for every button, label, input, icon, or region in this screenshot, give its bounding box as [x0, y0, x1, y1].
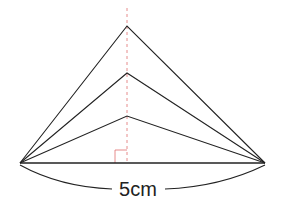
base-brace-right	[165, 165, 265, 189]
triangle-tall	[20, 26, 265, 163]
base-brace-left	[20, 165, 112, 189]
triangle-medium	[20, 73, 265, 163]
base-length-label: 5cm	[119, 178, 157, 200]
isosceles-triangles-diagram: 5cm	[0, 0, 292, 224]
right-angle-mark	[115, 150, 127, 163]
